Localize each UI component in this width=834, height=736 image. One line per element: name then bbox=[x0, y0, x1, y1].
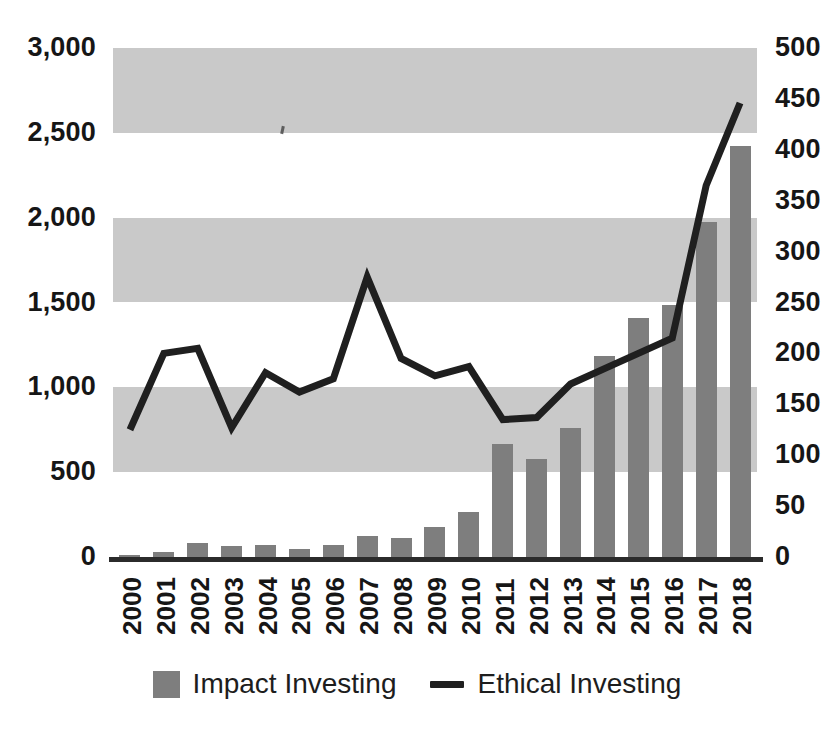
left-axis-tick-label: 2,500 bbox=[27, 119, 96, 146]
category-tick-label: 2016 bbox=[661, 577, 687, 635]
right-axis-tick-label: 300 bbox=[775, 238, 821, 265]
right-axis-tick-label: 200 bbox=[775, 339, 821, 366]
category-tick-label: 2009 bbox=[424, 577, 450, 635]
category-tick-label: 2013 bbox=[560, 577, 586, 635]
category-tick-label: 2005 bbox=[288, 577, 314, 635]
legend-label-ethical-investing: Ethical Investing bbox=[477, 668, 681, 700]
category-tick-label: 2010 bbox=[458, 577, 484, 635]
right-axis-tick-label: 0 bbox=[775, 543, 790, 570]
category-tick-label: 2000 bbox=[119, 577, 145, 635]
left-axis-tick-label: 2,000 bbox=[27, 204, 96, 231]
left-axis-tick-label: 0 bbox=[81, 543, 96, 570]
left-axis-tick-label: 3,000 bbox=[27, 34, 96, 61]
left-axis-tick-label: 1,000 bbox=[27, 373, 96, 400]
plot-area bbox=[113, 48, 757, 557]
dual-axis-chart: 05001,0001,5002,0002,5003,000 0501001502… bbox=[0, 0, 834, 736]
chart-legend: Impact Investing Ethical Investing bbox=[0, 668, 834, 700]
left-axis-tick-label: 1,500 bbox=[27, 289, 96, 316]
legend-item-impact-investing: Impact Investing bbox=[153, 668, 397, 700]
zero-baseline bbox=[109, 557, 763, 562]
right-axis-tick-label: 250 bbox=[775, 289, 821, 316]
legend-label-impact-investing: Impact Investing bbox=[193, 668, 397, 700]
category-tick-label: 2017 bbox=[695, 577, 721, 635]
legend-item-ethical-investing: Ethical Investing bbox=[430, 668, 681, 700]
legend-square-swatch-icon bbox=[153, 671, 180, 698]
category-tick-label: 2008 bbox=[390, 577, 416, 635]
category-tick-label: 2014 bbox=[593, 577, 619, 635]
right-axis-tick-label: 350 bbox=[775, 187, 821, 214]
right-axis-tick-label: 100 bbox=[775, 441, 821, 468]
category-tick-label: 2015 bbox=[627, 577, 653, 635]
category-tick-label: 2004 bbox=[255, 577, 281, 635]
right-axis-tick-label: 150 bbox=[775, 390, 821, 417]
legend-line-swatch-icon bbox=[430, 681, 464, 688]
right-axis-tick-label: 400 bbox=[775, 136, 821, 163]
category-tick-label: 2011 bbox=[492, 579, 518, 635]
category-tick-label: 2007 bbox=[356, 577, 382, 635]
category-tick-label: 2018 bbox=[729, 577, 755, 635]
category-tick-label: 2012 bbox=[526, 577, 552, 635]
category-tick-label: 2001 bbox=[153, 577, 179, 635]
line-series-ethical-investing bbox=[113, 48, 757, 557]
right-axis-tick-label: 500 bbox=[775, 34, 821, 61]
left-axis-tick-label: 500 bbox=[50, 458, 96, 485]
category-tick-label: 2002 bbox=[187, 577, 213, 635]
line-path bbox=[130, 103, 740, 430]
right-axis-tick-label: 450 bbox=[775, 85, 821, 112]
right-axis-tick-label: 50 bbox=[775, 492, 805, 519]
category-tick-label: 2006 bbox=[322, 577, 348, 635]
category-tick-label: 2003 bbox=[221, 577, 247, 635]
